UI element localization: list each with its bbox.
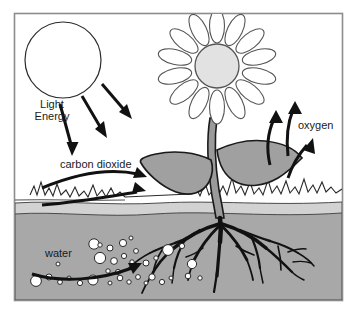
light-energy-label-line1: Light <box>40 98 64 110</box>
light-energy-label-line2: Energy <box>35 110 70 122</box>
flower-center <box>195 44 239 88</box>
oxygen-label: oxygen <box>298 119 333 131</box>
water-label: water <box>44 247 72 259</box>
photosynthesis-diagram-stage: Light Energy carbon dioxide <box>0 0 353 313</box>
ground-line-left <box>15 200 125 201</box>
sun <box>25 22 101 98</box>
photosynthesis-diagram: Light Energy carbon dioxide <box>0 0 353 313</box>
carbon-dioxide-label: carbon dioxide <box>60 158 132 170</box>
